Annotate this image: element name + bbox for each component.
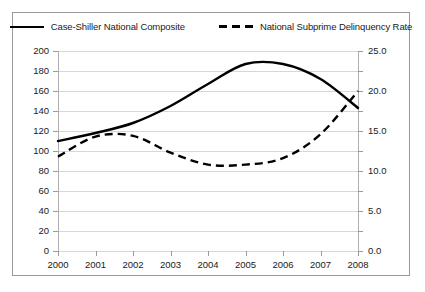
x-axis-tick bbox=[171, 251, 172, 256]
x-axis-tick bbox=[208, 251, 209, 256]
legend-label-case-shiller: Case-Shiller National Composite bbox=[51, 21, 185, 32]
x-axis-tick bbox=[96, 251, 97, 256]
y-axis-right-minor-tick bbox=[358, 111, 363, 112]
legend-item-case-shiller: Case-Shiller National Composite bbox=[10, 21, 185, 32]
y-axis-right-minor-tick bbox=[358, 191, 363, 192]
y-axis-right-minor-tick bbox=[358, 71, 363, 72]
y-axis-right-minor-tick bbox=[358, 231, 363, 232]
y-axis-right-tick bbox=[358, 51, 363, 52]
x-axis-tick-label: 2002 bbox=[122, 259, 143, 270]
x-axis-tick-label: 2007 bbox=[310, 259, 331, 270]
series-line-case-shiller bbox=[58, 62, 358, 141]
x-axis-tick-label: 2003 bbox=[160, 259, 181, 270]
y-axis-left-tick-label: 200 bbox=[33, 45, 49, 56]
y-axis-right-tick bbox=[358, 211, 363, 212]
legend-line-solid-icon bbox=[10, 26, 44, 28]
legend-item-subprime-delinquency: National Subprime Delinquency Rate bbox=[219, 21, 412, 32]
chart-figure: Case-Shiller National Composite National… bbox=[12, 12, 410, 276]
x-axis-tick-label: 2005 bbox=[235, 259, 256, 270]
y-axis-right-tick bbox=[358, 171, 363, 172]
y-axis-left-tick-label: 80 bbox=[38, 165, 49, 176]
legend-label-subprime-delinquency: National Subprime Delinquency Rate bbox=[260, 21, 412, 32]
plot-area: 020406080100120140160180200 0.05.010.015… bbox=[58, 51, 358, 251]
x-axis-tick bbox=[358, 251, 359, 256]
y-axis-left-tick-label: 20 bbox=[38, 225, 49, 236]
y-axis-left-tick-label: 100 bbox=[33, 145, 49, 156]
x-axis-tick-label: 2001 bbox=[85, 259, 106, 270]
chart-legend: Case-Shiller National Composite National… bbox=[13, 21, 409, 32]
y-axis-right-tick-label: 15.0 bbox=[368, 125, 387, 136]
y-axis-left-tick-label: 60 bbox=[38, 185, 49, 196]
y-axis-left-tick-label: 40 bbox=[38, 205, 49, 216]
x-axis-tick-label: 2006 bbox=[272, 259, 293, 270]
y-axis-right-tick-label: 5.0 bbox=[368, 205, 381, 216]
y-axis-left-tick-label: 180 bbox=[33, 65, 49, 76]
y-axis-right-tick-label: 20.0 bbox=[368, 85, 387, 96]
x-axis-tick bbox=[58, 251, 59, 256]
y-axis-right-tick-label: 0.0 bbox=[368, 245, 381, 256]
x-axis-tick bbox=[321, 251, 322, 256]
data-series bbox=[58, 51, 358, 251]
y-axis-left-tick-label: 160 bbox=[33, 85, 49, 96]
y-axis-left-tick-label: 120 bbox=[33, 125, 49, 136]
y-axis-left-tick-label: 0 bbox=[44, 245, 49, 256]
x-axis-tick bbox=[283, 251, 284, 256]
y-axis-right-tick-label: 25.0 bbox=[368, 45, 387, 56]
y-axis-right-minor-tick bbox=[358, 151, 363, 152]
y-axis-right-tick bbox=[358, 131, 363, 132]
x-axis-tick-label: 2008 bbox=[347, 259, 368, 270]
x-axis-tick-label: 2000 bbox=[47, 259, 68, 270]
x-axis-tick bbox=[133, 251, 134, 256]
x-axis-tick bbox=[246, 251, 247, 256]
y-axis-right-tick-label: 10.0 bbox=[368, 165, 387, 176]
y-axis-left-tick-label: 140 bbox=[33, 105, 49, 116]
series-line-subprime-delinquency bbox=[58, 91, 358, 166]
x-axis-tick-label: 2004 bbox=[197, 259, 218, 270]
